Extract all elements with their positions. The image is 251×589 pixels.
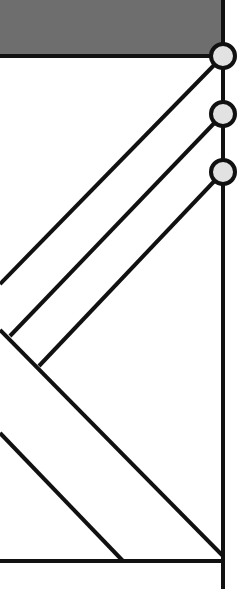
connector-line xyxy=(10,114,223,336)
node-circle-icon xyxy=(211,44,235,68)
connector-lines xyxy=(0,56,223,561)
gray-block xyxy=(0,0,223,56)
node-circles xyxy=(211,44,235,184)
connector-line xyxy=(0,330,223,556)
node-circle-icon xyxy=(211,160,235,184)
connector-line xyxy=(0,433,123,561)
connector-line xyxy=(39,172,223,366)
connector-line xyxy=(0,56,223,284)
diagram-canvas xyxy=(0,0,251,589)
node-circle-icon xyxy=(211,102,235,126)
